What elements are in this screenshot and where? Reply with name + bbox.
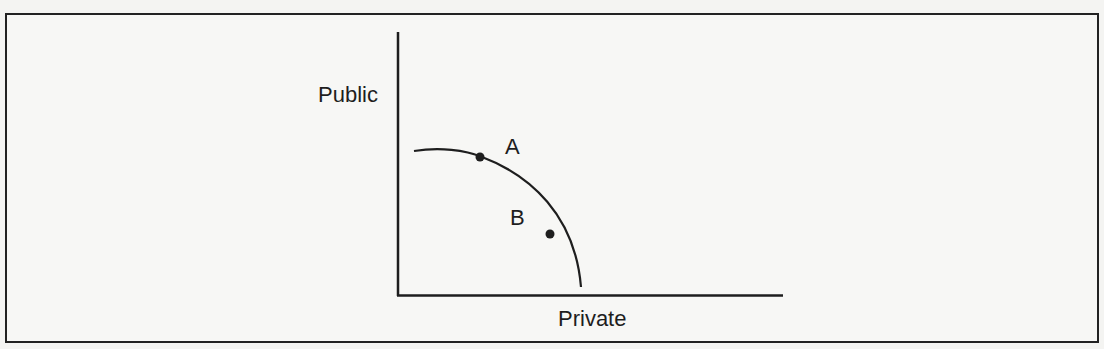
ppf-diagram (0, 0, 1104, 349)
point-a-label: A (505, 136, 520, 158)
y-axis-label: Public (318, 84, 378, 106)
x-axis-label: Private (558, 308, 626, 330)
ppf-curve (414, 149, 581, 287)
point-b-marker (546, 230, 555, 239)
point-b-label: B (510, 207, 525, 229)
point-a-marker (476, 153, 485, 162)
